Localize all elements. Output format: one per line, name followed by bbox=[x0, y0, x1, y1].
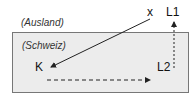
arrow-x-to-k bbox=[51, 19, 150, 67]
arrows-layer bbox=[0, 0, 196, 99]
